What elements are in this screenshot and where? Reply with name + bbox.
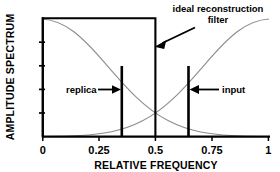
figure-container: 0 0.25 0.5 0.75 1 RELATIVE FREQUENCY AMP…: [0, 0, 280, 172]
annotation-filter-line1: ideal reconstruction: [173, 3, 264, 14]
annotation-filter-line2: filter: [208, 14, 229, 25]
x-tick-label-0: 0: [40, 144, 46, 156]
x-tick-label-1: 1: [265, 144, 271, 156]
x-axis-title: RELATIVE FREQUENCY: [94, 159, 218, 171]
annotation-replica-label: replica: [66, 84, 97, 95]
x-tick-label-0p25: 0.25: [88, 144, 109, 156]
annotation-input-label: input: [222, 84, 246, 95]
y-axis-title: AMPLITUDE SPECTRUM: [4, 14, 16, 141]
x-tick-label-0p5: 0.5: [148, 144, 163, 156]
x-tick-label-0p75: 0.75: [201, 144, 222, 156]
